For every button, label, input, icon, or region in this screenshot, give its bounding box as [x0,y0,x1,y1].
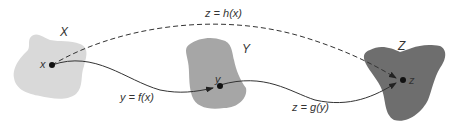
function-composition-diagram: X Y Z x y z y = f(x) z = g(y) z = h(x) [0,0,464,130]
arrow-h-label: z = h(x) [205,8,242,19]
arrow-g [220,81,396,103]
arrow-f-label: y = f(x) [120,92,154,103]
point-z-label: z [409,75,415,86]
diagram-graphics [0,0,464,130]
point-z [400,77,406,83]
set-y-label: Y [242,43,250,55]
arrow-g-label: z = g(y) [292,102,329,113]
set-z-region [364,45,445,121]
set-z-label: Z [398,40,405,52]
set-x-label: X [60,26,68,38]
point-y-label: y [215,74,221,85]
point-x-label: x [40,59,46,70]
point-x [49,62,55,68]
